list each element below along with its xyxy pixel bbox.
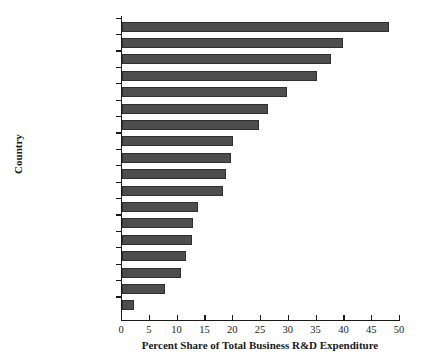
x-axis-tick-label: 50	[384, 324, 414, 335]
x-axis-tick-label: 10	[162, 324, 192, 335]
bar	[122, 284, 165, 294]
x-axis-tick	[343, 315, 344, 321]
y-axis-tick	[116, 264, 122, 265]
bar	[122, 104, 268, 114]
y-axis-tick	[116, 100, 122, 101]
x-axis-tick	[399, 315, 400, 321]
y-axis-tick	[116, 116, 122, 117]
bar	[122, 71, 317, 81]
bar	[122, 136, 233, 146]
bar	[122, 186, 223, 196]
bar	[122, 22, 389, 32]
y-axis-tick	[116, 132, 122, 133]
y-axis-tick	[116, 149, 122, 150]
y-axis-tick	[116, 247, 122, 248]
y-axis-tick	[116, 67, 122, 68]
bar	[122, 268, 181, 278]
bar	[122, 169, 226, 179]
y-axis-tick	[116, 296, 122, 297]
x-axis-tick-label: 15	[189, 324, 219, 335]
y-axis-tick	[116, 83, 122, 84]
x-axis-tick-label: 20	[217, 324, 247, 335]
x-axis-tick	[177, 315, 178, 321]
x-axis-tick	[149, 315, 150, 321]
bar	[122, 54, 331, 64]
x-axis-tick-label: 0	[106, 324, 136, 335]
bar	[122, 87, 287, 97]
y-axis-tick	[116, 18, 122, 19]
y-axis-tick	[116, 214, 122, 215]
bar	[122, 120, 259, 130]
x-axis-tick	[204, 315, 205, 321]
x-axis-tick	[260, 315, 261, 321]
bar	[122, 153, 231, 163]
bar	[122, 38, 343, 48]
x-axis-tick-label: 35	[301, 324, 331, 335]
x-axis-tick-label: 30	[273, 324, 303, 335]
y-axis-tick	[116, 50, 122, 51]
y-axis-tick	[116, 34, 122, 35]
y-axis-tick	[116, 198, 122, 199]
x-axis-tick-label: 45	[356, 324, 386, 335]
x-axis-tick-label: 25	[245, 324, 275, 335]
x-axis-title: Percent Share of Total Business R&D Expe…	[100, 339, 420, 351]
bar	[122, 251, 186, 261]
bar	[122, 218, 193, 228]
y-axis-tick	[116, 280, 122, 281]
bar-chart-figure: Country NorwayAustraliaSpainDenmarkCzech…	[0, 0, 421, 361]
bar	[122, 235, 192, 245]
y-axis-tick	[116, 165, 122, 166]
x-axis-tick	[371, 315, 372, 321]
x-axis-tick	[316, 315, 317, 321]
x-axis-tick	[288, 315, 289, 321]
x-axis-tick-label: 5	[134, 324, 164, 335]
bar	[122, 202, 198, 212]
y-axis-title: Country	[12, 114, 24, 194]
x-axis-tick	[232, 315, 233, 321]
bar	[122, 300, 134, 310]
x-axis-tick	[121, 315, 122, 321]
y-axis-tick	[116, 231, 122, 232]
x-axis-tick-label: 40	[328, 324, 358, 335]
y-axis-tick	[116, 182, 122, 183]
